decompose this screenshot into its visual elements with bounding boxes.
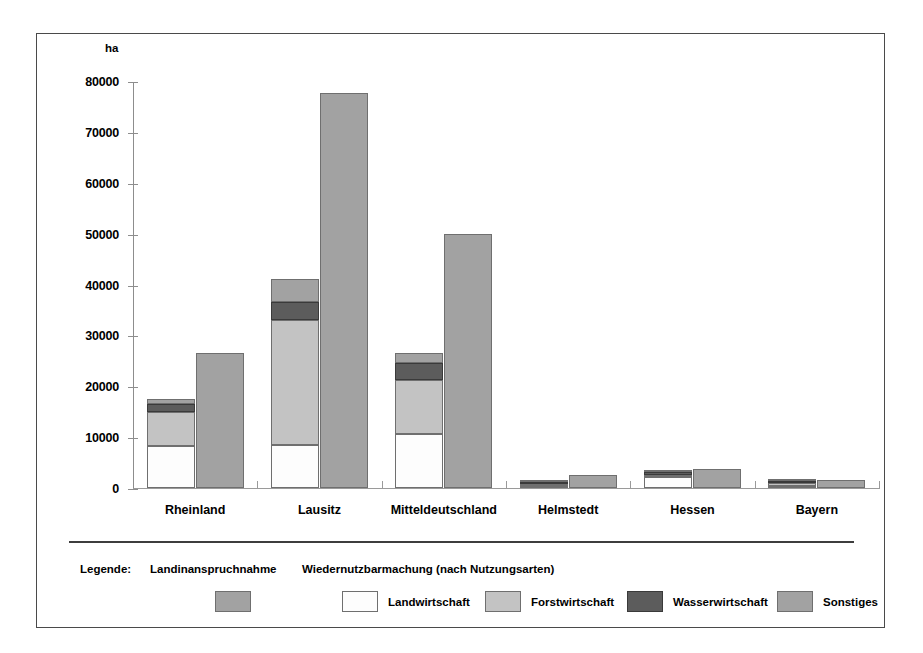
x-axis-label-hessen: Hessen [670,503,714,517]
legend-label-forstwirtschaft: Forstwirtschaft [531,596,614,608]
legend-divider [69,541,854,543]
y-axis-tick: 70000 [128,133,138,134]
bar-segment-landwirtschaft [520,486,568,488]
y-axis-tick-label: 30000 [85,329,119,343]
bar-segment-landwirtschaft [395,434,443,488]
legend-label-landwirtschaft: Landwirtschaft [388,596,470,608]
bar-landinanspruchnahme[interactable] [693,469,741,488]
bar-segment-sonstiges [271,279,319,302]
figure-frame: ha 0100002000030000400005000060000700008… [36,33,885,628]
y-axis-tick-label: 80000 [85,75,119,89]
y-axis-tick-label: 0 [112,482,119,496]
x-axis-label-lausitz: Lausitz [298,503,341,517]
bar-segment-forstwirtschaft [271,320,319,445]
y-axis-unit-label: ha [105,42,118,54]
legend-heading-landinanspruchnahme: Landinanspruchnahme [150,563,277,575]
bar-wiedernutzbarmachung[interactable] [768,479,816,488]
y-axis-tick-label: 10000 [85,431,119,445]
y-axis-tick-label: 60000 [85,177,119,191]
legend-swatch-sonstiges [777,591,813,612]
x-axis-end-tick [879,481,880,489]
bar-segment-forstwirtschaft [395,380,443,433]
bar-segment-landwirtschaft [768,486,816,488]
y-axis-tick-label: 50000 [85,228,119,242]
bar-wiedernutzbarmachung[interactable] [644,470,692,488]
legend-label-sonstiges: Sonstiges [823,596,878,608]
bar-wiedernutzbarmachung[interactable] [395,353,443,488]
bar-segment-wasserwirtschaft [147,404,195,412]
legend-word: Legende: [80,563,131,575]
x-axis-label-rheinland: Rheinland [165,503,225,517]
bar-segment-sonstiges [395,353,443,363]
y-axis-tick: 0 [128,489,138,490]
bar-segment-wasserwirtschaft [271,302,319,320]
legend-swatch-landwirtschaft [342,591,378,612]
legend-item-landwirtschaft[interactable]: Landwirtschaft [342,591,470,612]
plot-area: 0100002000030000400005000060000700008000… [133,82,879,536]
y-axis-tick-label: 40000 [85,279,119,293]
legend-heading-wiedernutzbarmachung: Wiedernutzbarmachung (nach Nutzungsarten… [302,563,554,575]
y-axis-tick: 30000 [128,336,138,337]
x-axis-label-bayern: Bayern [796,503,838,517]
bar-wiedernutzbarmachung[interactable] [520,480,568,488]
x-axis-category-separator [382,481,383,489]
y-axis-tick: 80000 [128,82,138,83]
y-axis-tick: 60000 [128,184,138,185]
bar-segment-wasserwirtschaft [395,363,443,380]
bar-landinanspruchnahme[interactable] [569,475,617,488]
legend-item-wasserwirtschaft[interactable]: Wasserwirtschaft [627,591,768,612]
bar-landinanspruchnahme[interactable] [817,480,865,488]
legend-swatch-forstwirtschaft [485,591,521,612]
legend-swatch-landinanspruchnahme [215,591,251,612]
bar-segment-landwirtschaft [644,477,692,488]
bar-segment-landwirtschaft [147,446,195,488]
y-axis-tick: 10000 [128,438,138,439]
bar-landinanspruchnahme[interactable] [320,93,368,488]
x-axis-label-helmstedt: Helmstedt [538,503,598,517]
y-axis-tick-label: 20000 [85,380,119,394]
bar-landinanspruchnahme[interactable] [196,353,244,488]
x-axis-category-separator [257,481,258,489]
legend: Legende: Landinanspruchnahme Wiedernutzb… [37,541,886,629]
x-axis-category-separator [630,481,631,489]
legend-item-forstwirtschaft[interactable]: Forstwirtschaft [485,591,614,612]
y-axis-tick: 20000 [128,387,138,388]
x-axis-label-mitteldeutschland: Mitteldeutschland [391,503,497,517]
y-axis-tick: 40000 [128,286,138,287]
bar-landinanspruchnahme[interactable] [444,234,492,488]
x-axis-category-separator [755,481,756,489]
y-axis-tick: 50000 [128,235,138,236]
legend-swatch-wasserwirtschaft [627,591,663,612]
legend-item-sonstiges[interactable]: Sonstiges [777,591,878,612]
legend-label-wasserwirtschaft: Wasserwirtschaft [673,596,768,608]
x-axis-category-separator [506,481,507,489]
bar-segment-landwirtschaft [271,445,319,488]
bar-wiedernutzbarmachung[interactable] [271,279,319,488]
y-axis-tick-label: 70000 [85,126,119,140]
bar-segment-forstwirtschaft [147,412,195,446]
bar-wiedernutzbarmachung[interactable] [147,399,195,488]
